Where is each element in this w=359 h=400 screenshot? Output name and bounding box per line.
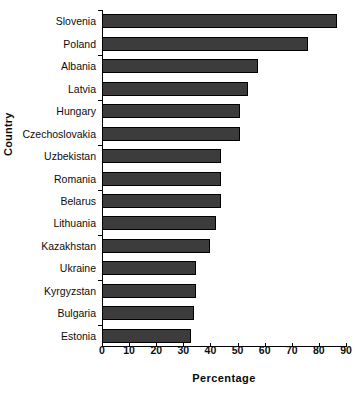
category-label: Uzbekistan	[44, 150, 96, 162]
x-axis-title: Percentage	[102, 372, 346, 384]
category-label: Latvia	[68, 83, 96, 95]
bar-row: Latvia	[102, 82, 346, 96]
bar-row: Lithuania	[102, 216, 346, 230]
category-label: Czechoslovakia	[22, 128, 96, 140]
bar-row: Ukraine	[102, 261, 346, 275]
bar	[102, 194, 221, 208]
bar	[102, 172, 221, 186]
y-tick-mark	[98, 235, 102, 236]
bar	[102, 261, 196, 275]
category-label: Romania	[54, 173, 96, 185]
x-tick-label: 50	[232, 344, 244, 356]
category-label: Belarus	[60, 195, 96, 207]
x-tick-label: 80	[313, 344, 325, 356]
bar	[102, 82, 248, 96]
x-tick-label: 60	[259, 344, 271, 356]
y-tick-mark	[98, 100, 102, 101]
x-tick-label: 10	[123, 344, 135, 356]
x-tick-label: 20	[150, 344, 162, 356]
bar	[102, 284, 196, 298]
category-label: Albania	[61, 60, 96, 72]
bar-row: Kyrgyzstan	[102, 284, 346, 298]
plot-area: SloveniaPolandAlbaniaLatviaHungaryCzecho…	[102, 10, 346, 347]
category-label: Bulgaria	[57, 307, 96, 319]
category-label: Estonia	[61, 330, 96, 342]
bar	[102, 306, 194, 320]
y-tick-mark	[98, 190, 102, 191]
x-tick-label: 70	[286, 344, 298, 356]
bar-row: Slovenia	[102, 14, 346, 28]
y-tick-mark	[98, 325, 102, 326]
bar-row: Bulgaria	[102, 306, 346, 320]
bar	[102, 59, 258, 73]
x-tick-label: 0	[99, 344, 105, 356]
bar	[102, 104, 240, 118]
category-label: Lithuania	[53, 217, 96, 229]
bar-row: Czechoslovakia	[102, 127, 346, 141]
bar-row: Hungary	[102, 104, 346, 118]
bar-row: Kazakhstan	[102, 239, 346, 253]
bar	[102, 239, 210, 253]
bar-row: Estonia	[102, 329, 346, 343]
bar-chart: Country SloveniaPolandAlbaniaLatviaHunga…	[0, 0, 359, 400]
y-tick-mark	[98, 10, 102, 11]
y-tick-mark	[98, 55, 102, 56]
category-label: Kyrgyzstan	[44, 285, 96, 297]
bar	[102, 37, 308, 51]
category-label: Ukraine	[60, 262, 96, 274]
bar-row: Albania	[102, 59, 346, 73]
category-label: Hungary	[56, 105, 96, 117]
bar	[102, 127, 240, 141]
category-label: Slovenia	[56, 15, 96, 27]
bar-row: Uzbekistan	[102, 149, 346, 163]
y-axis-title: Country	[2, 56, 18, 156]
bar-row: Belarus	[102, 194, 346, 208]
y-tick-mark	[98, 280, 102, 281]
bar-row: Poland	[102, 37, 346, 51]
y-tick-mark	[98, 145, 102, 146]
x-tick-label: 30	[177, 344, 189, 356]
bar	[102, 216, 216, 230]
category-label: Kazakhstan	[41, 240, 96, 252]
x-axis-line	[102, 346, 347, 347]
bar	[102, 149, 221, 163]
bar-row: Romania	[102, 172, 346, 186]
x-tick-label: 40	[205, 344, 217, 356]
bar	[102, 329, 191, 343]
bar	[102, 14, 337, 28]
x-tick-label: 90	[340, 344, 352, 356]
category-label: Poland	[63, 38, 96, 50]
